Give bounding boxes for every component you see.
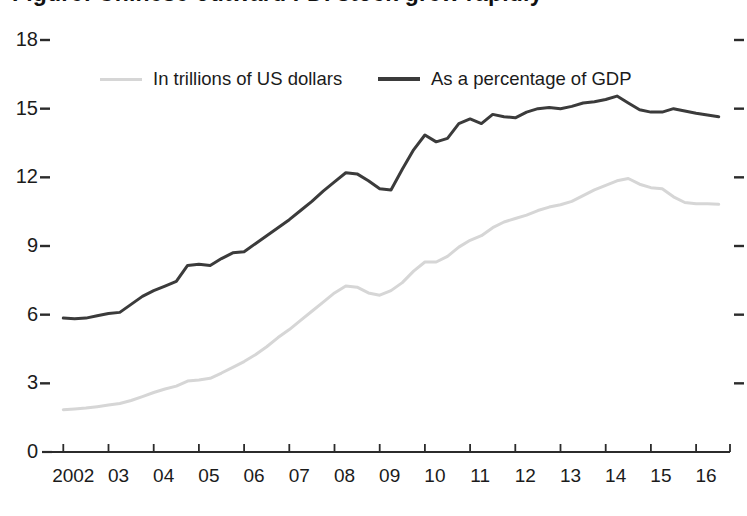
y-axis-tick-label: 6 (4, 304, 38, 324)
y-axis-tick-label: 9 (4, 235, 38, 255)
chart-axes (40, 40, 744, 452)
legend-swatch-icon (100, 78, 142, 81)
x-axis-tick-label: 16 (677, 466, 735, 486)
y-axis-tick-label: 0 (4, 441, 38, 461)
legend-label: In trillions of US dollars (153, 68, 342, 90)
y-axis-tick-label: 3 (4, 372, 38, 392)
y-axis-tick-label: 12 (4, 166, 38, 186)
legend-label: As a percentage of GDP (431, 68, 632, 90)
y-axis-tick-label: 18 (4, 29, 38, 49)
legend-item: In trillions of US dollars (100, 68, 342, 90)
y-axis-tick-label: 15 (4, 98, 38, 118)
legend-swatch-icon (378, 77, 420, 81)
legend-item: As a percentage of GDP (378, 68, 632, 90)
chart-series-lines (63, 96, 718, 410)
series-line (63, 96, 718, 319)
chart-figure: Figure: Chinese outward FDI stock grew r… (0, 0, 747, 516)
series-line (63, 178, 718, 409)
